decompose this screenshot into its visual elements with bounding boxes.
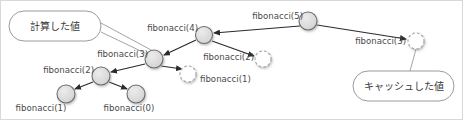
tree-edge [111, 64, 145, 72]
tree-edge [214, 26, 300, 33]
tree-edge [109, 82, 127, 89]
node-label: fibonacci(1) [200, 74, 251, 84]
tree-node-fib2a[interactable]: fibonacci(2) [203, 51, 271, 67]
tree-edge [164, 40, 196, 55]
tree-node-fib2b[interactable]: fibonacci(2) [43, 65, 110, 85]
tree-edge [75, 82, 93, 89]
node-label: fibonacci(3) [355, 36, 406, 46]
node-label: fibonacci(1) [16, 103, 67, 113]
tree-node-fib4[interactable]: fibonacci(4) [147, 23, 212, 44]
computed-node-circle[interactable] [196, 27, 213, 44]
tree-node-fib0[interactable]: fibonacci(0) [104, 85, 155, 113]
callout-leader-line [410, 49, 416, 71]
callout-text: キャッシュした値 [364, 80, 444, 92]
node-label: fibonacci(3) [97, 49, 148, 59]
node-label: fibonacci(2) [203, 52, 254, 62]
node-label: fibonacci(4) [147, 23, 198, 33]
tree-node-fib1a[interactable]: fibonacci(1) [180, 66, 251, 84]
tree-edge [161, 66, 182, 69]
computed-node-circle[interactable] [92, 67, 110, 85]
tree-node-fib3b[interactable]: fibonacci(3) [355, 33, 424, 49]
callout-computed[interactable]: 計算した値 [9, 11, 101, 41]
cached-node-circle[interactable] [180, 66, 196, 82]
node-label: fibonacci(2) [43, 65, 94, 75]
callout-text: 計算した値 [30, 20, 80, 32]
callout-leader-line [101, 23, 153, 51]
diagram-canvas: fibonacci(5)fibonacci(4)fibonacci(3)fibo… [0, 0, 463, 120]
computed-node-circle[interactable] [57, 85, 75, 103]
cached-node-circle[interactable] [408, 33, 424, 49]
node-label: fibonacci(0) [104, 103, 155, 113]
tree-node-fib1b[interactable]: fibonacci(1) [16, 85, 75, 113]
fibonacci-call-tree-diagram: fibonacci(5)fibonacci(4)fibonacci(3)fibo… [1, 1, 463, 120]
computed-node-circle[interactable] [127, 85, 145, 103]
tree-node-fib3a[interactable]: fibonacci(3) [97, 49, 163, 68]
cached-node-circle[interactable] [255, 51, 271, 67]
node-label: fibonacci(5) [252, 11, 303, 21]
callout-cached[interactable]: キャッシュした値 [353, 71, 454, 101]
